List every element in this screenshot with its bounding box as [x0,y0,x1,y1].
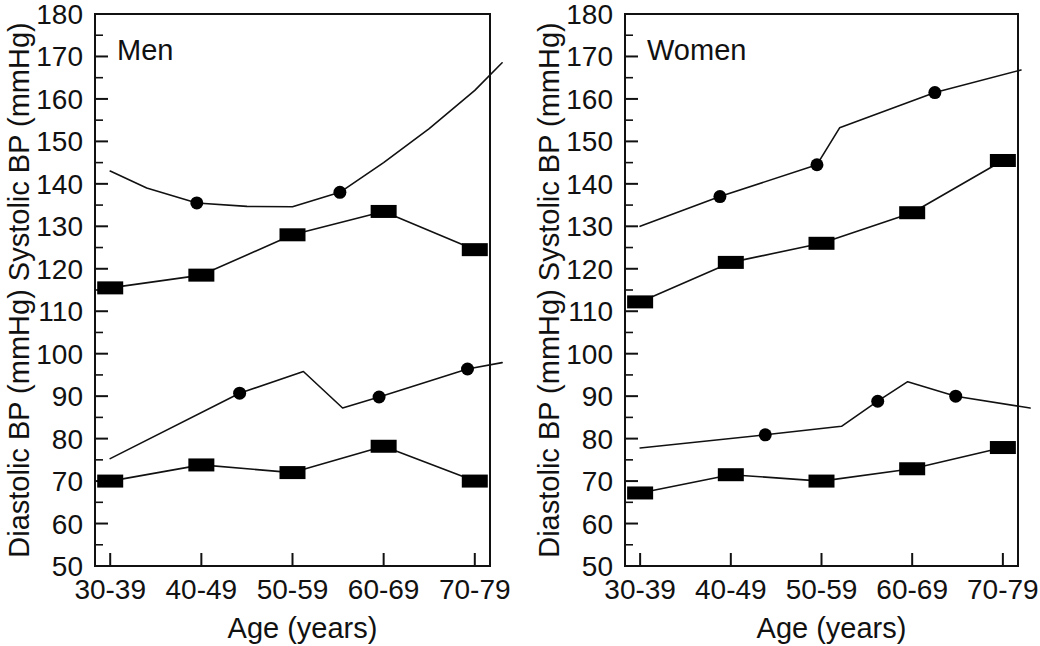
y-tick-label: 100 [36,339,83,370]
panel-title: Women [647,34,746,66]
y-tick-label: 110 [38,296,83,327]
x-tick-label: 50-59 [257,574,329,605]
y-axis-title: Diastolic BP (mmHg) Systolic BP (mmHg) [533,22,565,558]
data-marker-square [97,281,123,294]
data-marker-square [718,256,744,269]
data-marker-square [990,441,1016,454]
series-line-3 [640,382,1030,448]
data-marker-square [627,295,653,308]
y-tick-label: 170 [36,41,83,72]
data-marker-circle [928,86,941,99]
x-tick-label: 40-49 [166,574,238,605]
data-marker-square [718,468,744,481]
plot-frame [95,14,490,566]
data-marker-square [899,206,925,219]
data-marker-circle [190,196,203,209]
data-marker-circle [713,190,726,203]
data-marker-square [97,475,123,488]
data-marker-square [280,228,306,241]
data-marker-square [462,475,488,488]
data-marker-square [627,486,653,499]
panel-men: 506070809010011012013014015016017018030-… [36,0,510,644]
data-marker-square [990,154,1016,167]
chart-canvas: 506070809010011012013014015016017018030-… [0,0,1040,646]
y-tick-label: 140 [566,169,613,200]
y-axis-title: Diastolic BP (mmHg) Systolic BP (mmHg) [3,22,35,558]
data-marker-circle [373,391,386,404]
y-tick-label: 120 [36,254,83,285]
data-marker-square [371,440,397,453]
y-tick-label: 150 [36,126,83,157]
y-tick-label: 80 [52,424,83,455]
y-tick-label: 160 [36,84,83,115]
data-marker-square [280,466,306,479]
y-tick-label: 90 [582,381,613,412]
series-line-0 [110,211,475,288]
data-marker-circle [810,158,823,171]
x-tick-label: 60-69 [348,574,420,605]
series-line-1 [640,70,1021,226]
y-tick-label: 170 [566,41,613,72]
data-marker-circle [333,186,346,199]
y-tick-label: 90 [52,381,83,412]
panel-women: 506070809010011012013014015016017018030-… [566,0,1038,644]
y-tick-label: 130 [36,211,83,242]
x-tick-label: 30-39 [604,574,676,605]
data-marker-square [188,458,214,471]
panel-title: Men [117,34,173,66]
series-line-1 [110,63,502,207]
y-tick-label: 180 [36,0,83,30]
data-marker-circle [461,362,474,375]
x-tick-label: 60-69 [876,574,948,605]
x-tick-label: 70-79 [967,574,1039,605]
y-tick-label: 140 [36,169,83,200]
data-marker-square [188,269,214,282]
data-marker-square [809,237,835,250]
y-tick-label: 180 [566,0,613,30]
data-marker-circle [233,387,246,400]
x-tick-label: 50-59 [786,574,858,605]
y-tick-label: 130 [566,211,613,242]
data-marker-square [462,243,488,256]
y-tick-label: 60 [582,509,613,540]
y-tick-label: 110 [568,296,613,327]
data-marker-square [371,205,397,218]
x-axis-title: Age (years) [228,612,378,644]
data-marker-square [899,462,925,475]
data-marker-circle [759,428,772,441]
y-tick-label: 120 [566,254,613,285]
y-tick-label: 80 [582,424,613,455]
x-tick-label: 40-49 [695,574,767,605]
series-line-0 [640,161,1003,302]
y-tick-label: 70 [582,466,613,497]
x-tick-label: 70-79 [439,574,511,605]
data-marker-square [809,475,835,488]
x-tick-label: 30-39 [74,574,146,605]
series-line-3 [110,363,502,459]
x-axis-title: Age (years) [757,612,907,644]
data-marker-circle [871,395,884,408]
blood-pressure-figure: 506070809010011012013014015016017018030-… [0,0,1040,646]
data-marker-circle [949,390,962,403]
y-tick-label: 60 [52,509,83,540]
y-tick-label: 150 [566,126,613,157]
y-tick-label: 70 [52,466,83,497]
y-tick-label: 100 [566,339,613,370]
y-tick-label: 160 [566,84,613,115]
